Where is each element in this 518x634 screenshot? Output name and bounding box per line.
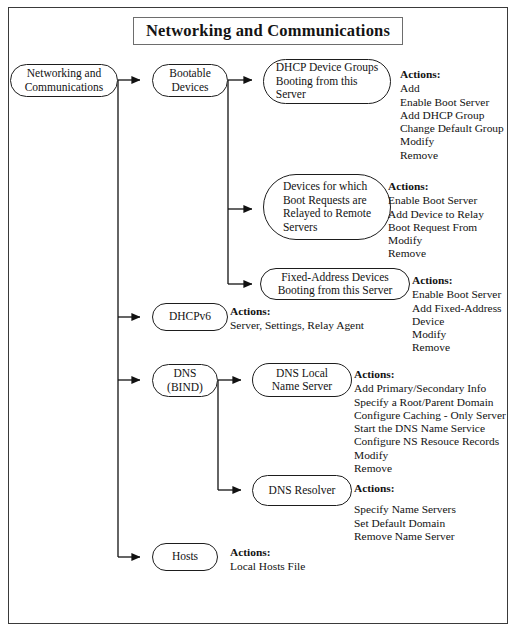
actions-relayed-boot-request-devices: Actions: Enable Boot Server Add Device t… <box>388 180 516 261</box>
actions-items: Server, Settings, Relay Agent <box>230 319 430 332</box>
actions-items: Enable Boot Server Add Device to Relay B… <box>388 194 516 260</box>
actions-heading: Actions: <box>230 305 430 318</box>
node-label: DNS Local Name Server <box>262 367 342 394</box>
node-dhcpv6[interactable]: DHCPv6 <box>152 303 228 331</box>
node-label: DNS (BIND) <box>157 367 213 394</box>
node-label: DNS Resolver <box>259 484 346 498</box>
actions-heading: Actions: <box>230 546 390 559</box>
node-label: DHCPv6 <box>159 310 221 324</box>
actions-dhcpv6: Actions: Server, Settings, Relay Agent <box>230 305 430 333</box>
actions-items: Add Enable Boot Server Add DHCP Group Ch… <box>400 82 516 162</box>
node-label: Fixed-Address Devices Booting from this … <box>268 271 403 298</box>
actions-items: Add Primary/Secondary Info Specify a Roo… <box>354 382 516 475</box>
node-fixed-address-devices[interactable]: Fixed-Address Devices Booting from this … <box>260 268 410 300</box>
diagram-page: Networking and Communications <box>0 0 518 634</box>
actions-dhcp-device-groups: Actions: Add Enable Boot Server Add DHCP… <box>400 68 516 162</box>
node-label: Hosts <box>162 550 208 564</box>
node-bootable-devices[interactable]: Bootable Devices <box>152 64 228 97</box>
actions-dns-resolver: Actions: Specify Name Servers Set Defaul… <box>354 482 516 543</box>
actions-heading: Actions: <box>354 368 516 381</box>
actions-heading: Actions: <box>354 482 516 495</box>
actions-items: Local Hosts File <box>230 560 390 573</box>
node-dns-resolver[interactable]: DNS Resolver <box>252 475 352 506</box>
actions-heading: Actions: <box>388 180 516 193</box>
node-label: Devices for which Boot Requests are Rela… <box>273 180 381 234</box>
node-label: DHCP Device Groups Booting from this Ser… <box>266 61 388 102</box>
actions-dns-local-name-server: Actions: Add Primary/Secondary Info Spec… <box>354 368 516 475</box>
node-label: Networking and Communications <box>15 67 114 94</box>
node-label: Bootable Devices <box>159 67 221 94</box>
node-dhcp-device-groups[interactable]: DHCP Device Groups Booting from this Ser… <box>263 59 391 104</box>
actions-hosts: Actions: Local Hosts File <box>230 546 390 574</box>
actions-items: Specify Name Servers Set Default Domain … <box>354 503 516 543</box>
actions-heading: Actions: <box>412 274 516 287</box>
node-networking-and-communications[interactable]: Networking and Communications <box>10 64 118 97</box>
actions-heading: Actions: <box>400 68 516 81</box>
node-dns-bind[interactable]: DNS (BIND) <box>152 364 218 397</box>
node-relayed-boot-request-devices[interactable]: Devices for which Boot Requests are Rela… <box>263 174 391 240</box>
node-dns-local-name-server[interactable]: DNS Local Name Server <box>252 363 352 397</box>
node-hosts[interactable]: Hosts <box>152 543 218 571</box>
